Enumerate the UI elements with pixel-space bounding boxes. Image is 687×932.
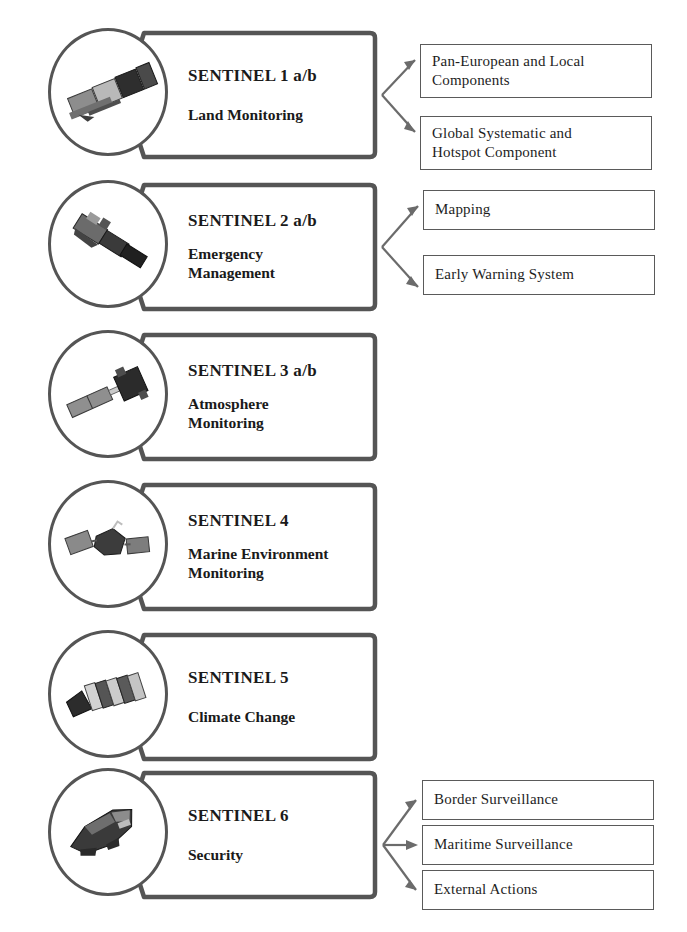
sentinel-4-title: SENTINEL 4 xyxy=(188,511,374,531)
service-text-line: Global Systematic and xyxy=(432,124,578,144)
theme-line: Marine Environment xyxy=(188,545,374,564)
satellite-icon xyxy=(51,771,165,893)
diagram-row-sentinel-4: SENTINEL 4 Marine Environment Monitoring xyxy=(0,480,687,614)
sentinel-3-theme: Atmosphere Monitoring xyxy=(188,395,374,433)
service-text-line: Hotspot Component xyxy=(432,143,578,163)
diagram-row-sentinel-5: SENTINEL 5 Climate Change xyxy=(0,630,687,764)
diagram-row-sentinel-6: SENTINEL 6 Security xyxy=(0,768,687,902)
sentinel-services-diagram: SENTINEL 1 a/b Land Monitoring xyxy=(0,0,687,932)
diagram-row-sentinel-2: SENTINEL 2 a/b Emergency Management xyxy=(0,180,687,314)
service-box-external-actions[interactable]: External Actions xyxy=(422,870,654,910)
sentinel-4-theme: Marine Environment Monitoring xyxy=(188,545,374,583)
service-text-line: Mapping xyxy=(424,200,497,220)
satellite-icon xyxy=(51,483,165,605)
theme-line: Monitoring xyxy=(188,414,374,433)
satellite-icon xyxy=(51,31,165,153)
service-box-mapping[interactable]: Mapping xyxy=(423,190,655,230)
sentinel-2-icon-circle[interactable] xyxy=(48,180,168,308)
service-box-maritime-surveillance[interactable]: Maritime Surveillance xyxy=(422,825,654,865)
sentinel-3-title: SENTINEL 3 a/b xyxy=(188,361,374,381)
theme-line: Monitoring xyxy=(188,564,374,583)
sentinel-4-icon-circle[interactable] xyxy=(48,480,168,608)
theme-line: Atmosphere xyxy=(188,395,374,414)
diagram-row-sentinel-1: SENTINEL 1 a/b Land Monitoring xyxy=(0,28,687,162)
sentinel-6-icon-circle[interactable] xyxy=(48,768,168,896)
service-text-line: Components xyxy=(432,71,591,91)
service-box-global-systematic-and-hotspot-component[interactable]: Global Systematic and Hotspot Component xyxy=(420,116,652,170)
theme-line: Climate Change xyxy=(188,708,374,727)
sentinel-4-labels: SENTINEL 4 Marine Environment Monitoring xyxy=(188,482,374,612)
sentinel-1-icon-circle[interactable] xyxy=(48,28,168,156)
service-text-line: Border Surveillance xyxy=(423,790,564,810)
sentinel-3-labels: SENTINEL 3 a/b Atmosphere Monitoring xyxy=(188,332,374,462)
service-box-border-surveillance[interactable]: Border Surveillance xyxy=(422,780,654,820)
satellite-icon xyxy=(51,633,165,755)
diagram-row-sentinel-3: SENTINEL 3 a/b Atmosphere Monitoring xyxy=(0,330,687,464)
satellite-icon xyxy=(51,333,165,455)
sentinel-5-icon-circle[interactable] xyxy=(48,630,168,758)
service-box-early-warning-system[interactable]: Early Warning System xyxy=(423,255,655,295)
service-box-pan-european-and-local-components[interactable]: Pan-European and Local Components xyxy=(420,44,652,98)
service-text-line: Early Warning System xyxy=(424,265,580,285)
sentinel-5-theme: Climate Change xyxy=(188,708,374,727)
sentinel-5-title: SENTINEL 5 xyxy=(188,668,374,688)
service-text-line: Maritime Surveillance xyxy=(423,835,579,855)
sentinel-3-icon-circle[interactable] xyxy=(48,330,168,458)
service-text-line: Pan-European and Local xyxy=(432,52,591,72)
satellite-icon xyxy=(51,183,165,305)
sentinel-5-labels: SENTINEL 5 Climate Change xyxy=(188,632,374,762)
service-text-line: External Actions xyxy=(423,880,544,900)
